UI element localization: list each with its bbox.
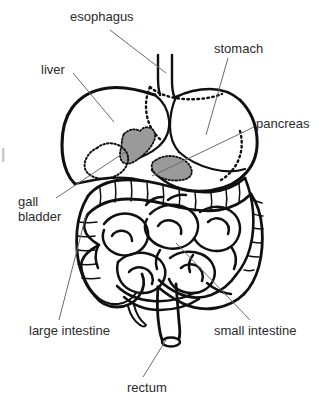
label-esophagus: esophagus [70, 10, 134, 24]
leader-line-esophagus [110, 30, 166, 73]
label-gall-bladder-line2: bladder [18, 210, 61, 224]
rectum-organ [157, 284, 180, 347]
leader-line-gall-bladder [56, 152, 125, 198]
label-pancreas: pancreas [256, 117, 309, 131]
esophagus-organ [158, 55, 174, 96]
leader-line-liver [73, 73, 114, 122]
label-large-intestine: large intestine [29, 324, 110, 338]
label-rectum: rectum [127, 381, 167, 395]
label-liver: liver [41, 63, 65, 77]
leader-line-rectum [143, 340, 166, 377]
label-gall-bladder-line1: gall [18, 195, 38, 209]
digestive-system-figure: esophagus stomach pancreas liver gall bl… [0, 0, 323, 409]
leader-line-stomach [206, 58, 228, 135]
label-small-intestine: small intestine [214, 324, 296, 338]
edge-artifact-mark [2, 148, 5, 162]
label-stomach: stomach [214, 42, 263, 56]
